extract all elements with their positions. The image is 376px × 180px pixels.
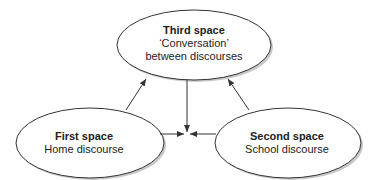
- third-space-title: Third space: [145, 24, 242, 37]
- arrow-second-to-third: [228, 79, 249, 110]
- first-space-line-1: Home discourse: [44, 143, 123, 156]
- third-space-line-2: between discourses: [145, 50, 242, 63]
- third-space-label: Third space ‘Conversation’ between disco…: [145, 24, 242, 63]
- first-space-title: First space: [44, 130, 123, 143]
- second-space-title: Second space: [245, 130, 329, 143]
- second-space-line-1: School discourse: [245, 143, 329, 156]
- third-space-line-1: ‘Conversation’: [145, 37, 242, 50]
- first-space-label: First space Home discourse: [44, 130, 123, 156]
- arrow-first-to-third: [126, 79, 146, 110]
- second-space-label: Second space School discourse: [245, 130, 329, 156]
